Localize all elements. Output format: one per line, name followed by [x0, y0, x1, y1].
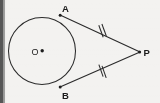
circle-center-label: O [32, 47, 39, 57]
point-label-a: A [62, 3, 69, 14]
circle-center-dot [41, 49, 44, 52]
point-label-b: B [62, 90, 69, 101]
left-edge-band-feather [3, 0, 5, 103]
left-edge-band [0, 0, 3, 103]
geometry-figure: A B P O [0, 0, 160, 103]
point-label-p: P [144, 47, 151, 58]
figure-background [0, 0, 160, 103]
geometry-canvas: A B P O [0, 0, 160, 103]
point-p-dot [138, 51, 141, 54]
point-b-dot [59, 86, 62, 89]
point-a-dot [59, 14, 62, 17]
